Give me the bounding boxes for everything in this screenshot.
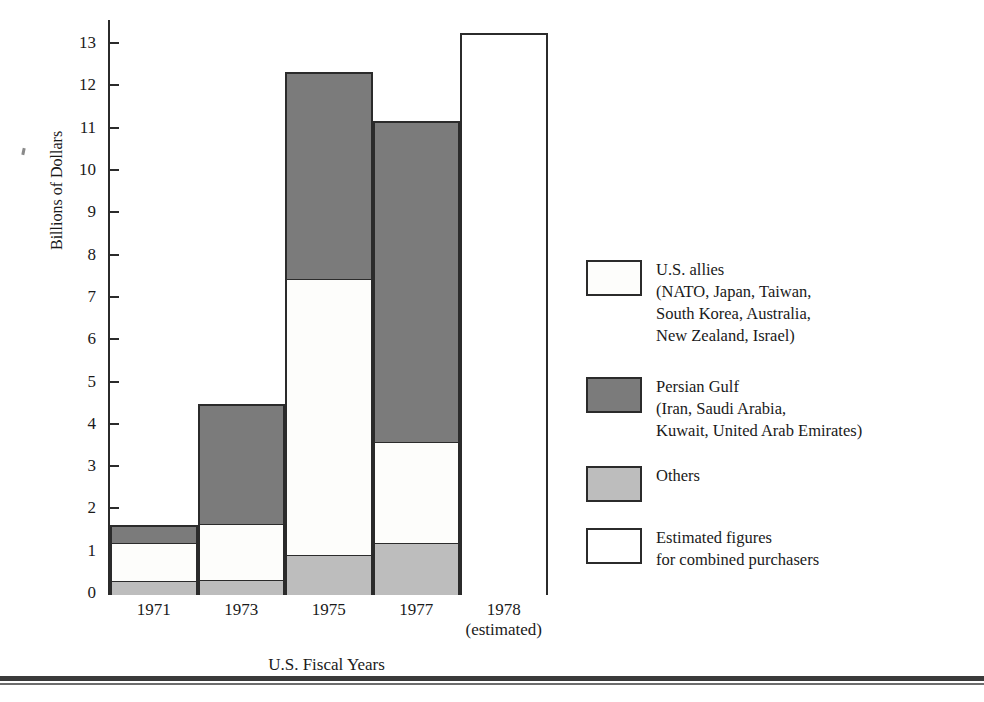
y-tick-label-10: 10 <box>66 161 96 178</box>
footer-rule-thick <box>0 676 984 681</box>
bar-segment-1973-others <box>200 581 284 595</box>
bar-1978 <box>460 33 548 593</box>
y-tick-6 <box>110 338 119 340</box>
y-axis-title: Billions of Dollars <box>48 131 66 250</box>
bar-segment-1977-allies <box>375 443 459 545</box>
legend-item-others: Others <box>586 464 976 502</box>
y-tick-label-6: 6 <box>66 330 96 347</box>
legend-item-estimated: Estimated figures for combined purchaser… <box>586 526 976 571</box>
x-tick-label-note: (estimated) <box>460 620 548 640</box>
y-tick-8 <box>110 254 119 256</box>
y-tick-13 <box>110 42 119 44</box>
x-tick-label-1973: 1973 <box>198 600 286 620</box>
x-tick-label-year: 1978 <box>460 600 548 620</box>
x-tick-label-year: 1973 <box>198 600 286 620</box>
y-tick-2 <box>110 507 119 509</box>
bar-segment-1971-others <box>112 582 196 595</box>
legend-swatch-estimated <box>586 528 642 564</box>
y-tick-label-8: 8 <box>66 246 96 263</box>
legend-swatch-gulf <box>586 377 642 413</box>
bar-segment-1975-others <box>287 556 371 595</box>
x-tick-label-year: 1971 <box>110 600 198 620</box>
y-tick-7 <box>110 296 119 298</box>
bar-segment-1971-allies <box>112 544 196 582</box>
footer-rule-thin <box>0 683 984 685</box>
x-axis-title: U.S. Fiscal Years <box>108 655 545 675</box>
legend-label-gulf: Persian Gulf (Iran, Saudi Arabia, Kuwait… <box>656 375 862 442</box>
y-tick-label-5: 5 <box>66 373 96 390</box>
bar-segment-1975-gulf <box>287 74 371 280</box>
x-tick-label-1977: 1977 <box>373 600 461 620</box>
y-tick-10 <box>110 169 119 171</box>
legend-label-others: Others <box>656 464 700 487</box>
bar-1975 <box>285 72 373 593</box>
y-tick-label-12: 12 <box>66 76 96 93</box>
legend-swatch-allies <box>586 260 642 296</box>
y-tick-label-3: 3 <box>66 457 96 474</box>
y-tick-label-7: 7 <box>66 288 96 305</box>
x-tick-label-1978: 1978(estimated) <box>460 600 548 639</box>
x-tick-label-1975: 1975 <box>285 600 373 620</box>
legend-swatch-others <box>586 466 642 502</box>
x-tick-label-1971: 1971 <box>110 600 198 620</box>
bar-segment-1971-gulf <box>112 527 196 544</box>
chart-legend: U.S. allies (NATO, Japan, Taiwan, South … <box>586 258 976 592</box>
plot-region: 012345678910111213 Billions of Dollars <box>108 20 545 593</box>
bar-segment-1975-allies <box>287 280 371 556</box>
scan-artifact-speck <box>21 148 25 155</box>
chart-figure: 012345678910111213 Billions of Dollars 1… <box>0 0 600 700</box>
legend-item-allies: U.S. allies (NATO, Japan, Taiwan, South … <box>586 258 976 347</box>
y-tick-3 <box>110 465 119 467</box>
bar-1973 <box>198 404 286 593</box>
bar-segment-1973-allies <box>200 525 284 581</box>
bar-1977 <box>373 121 461 593</box>
x-tick-label-year: 1975 <box>285 600 373 620</box>
bar-segment-1977-gulf <box>375 123 459 443</box>
y-tick-label-0: 0 <box>66 584 96 601</box>
y-tick-4 <box>110 423 119 425</box>
y-tick-label-4: 4 <box>66 415 96 432</box>
y-tick-9 <box>110 211 119 213</box>
x-tick-label-year: 1977 <box>373 600 461 620</box>
y-tick-label-13: 13 <box>66 34 96 51</box>
y-tick-12 <box>110 84 119 86</box>
legend-label-estimated: Estimated figures for combined purchaser… <box>656 526 819 571</box>
y-tick-label-11: 11 <box>66 119 96 136</box>
bar-segment-1973-gulf <box>200 406 284 525</box>
y-tick-label-2: 2 <box>66 499 96 516</box>
y-tick-label-9: 9 <box>66 203 96 220</box>
legend-item-gulf: Persian Gulf (Iran, Saudi Arabia, Kuwait… <box>586 375 976 442</box>
bar-segment-1977-others <box>375 544 459 595</box>
y-tick-5 <box>110 381 119 383</box>
y-tick-11 <box>110 127 119 129</box>
bar-1971 <box>110 525 198 593</box>
y-tick-label-1: 1 <box>66 542 96 559</box>
legend-label-allies: U.S. allies (NATO, Japan, Taiwan, South … <box>656 258 811 347</box>
bar-segment-1978-estimated <box>462 35 546 595</box>
